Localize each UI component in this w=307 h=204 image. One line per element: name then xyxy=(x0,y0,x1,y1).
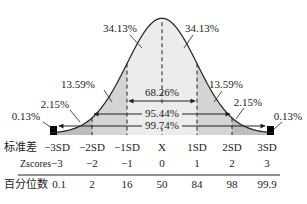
tail-right xyxy=(267,126,274,135)
table-row-header: 标准差 xyxy=(4,140,37,154)
table-cell: 1SD xyxy=(187,141,207,153)
band-percent-label: 2.15% xyxy=(41,98,69,110)
table-cell: −3SD xyxy=(44,141,70,153)
table-cell: 98 xyxy=(227,178,239,190)
band-percent-label: 13.59% xyxy=(209,78,243,90)
band-percent-label: 13.59% xyxy=(61,78,95,90)
table-cell: −3 xyxy=(51,157,63,169)
table-cell: 2 xyxy=(89,178,95,190)
table-cell: 1 xyxy=(194,157,200,169)
table-cell: −1SD xyxy=(114,141,140,153)
table-cell: 3 xyxy=(264,157,270,169)
band-leader-line xyxy=(70,110,80,122)
table-cell: −2 xyxy=(86,157,98,169)
table-row-header: 百分位数 xyxy=(4,177,48,191)
table-cell: 16 xyxy=(122,178,134,190)
table-cell: 99.9 xyxy=(257,178,277,190)
interval-label: 99.74% xyxy=(145,119,179,131)
band-leader-line xyxy=(273,122,282,130)
table-cell: 84 xyxy=(192,178,204,190)
normal-distribution-chart: 68.26%95.44%99.74% 0.13%2.15%13.59%34.13… xyxy=(0,0,307,204)
band-percent-label: 34.13% xyxy=(103,22,137,34)
band-percent-label: 34.13% xyxy=(185,22,219,34)
band-percent-label: 0.13% xyxy=(274,110,302,122)
table-cell: 3SD xyxy=(257,141,277,153)
table-cell: 50 xyxy=(157,178,169,190)
table-cell: 0 xyxy=(159,157,165,169)
table-cell: −1 xyxy=(121,157,133,169)
table-cell: 0.1 xyxy=(52,178,66,190)
band-percent-label: 0.13% xyxy=(12,110,40,122)
table-cell: X xyxy=(158,141,166,153)
score-table: 标准差−3SD−2SD−1SDX1SD2SD3SDZscores−3−2−101… xyxy=(4,140,280,191)
band-leader-line xyxy=(236,108,244,119)
table-row-header: Zscores xyxy=(20,158,51,169)
table-cell: 2SD xyxy=(222,141,242,153)
table-cell: 2 xyxy=(229,157,235,169)
interval-label: 68.26% xyxy=(145,86,179,98)
table-cell: −2SD xyxy=(79,141,105,153)
band-percent-label: 2.15% xyxy=(234,96,262,108)
